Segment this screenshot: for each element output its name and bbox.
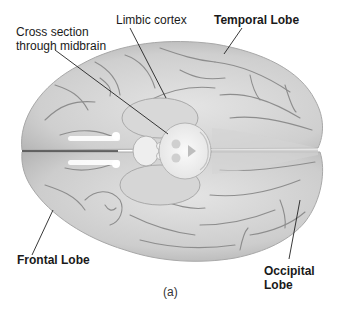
label-cross-section-line1: Cross section — [16, 25, 106, 39]
label-frontal-lobe: Frontal Lobe — [17, 253, 90, 267]
label-occipital-lobe-line2: Lobe — [264, 278, 315, 292]
figure-caption: (a) — [163, 285, 178, 299]
label-limbic-cortex-text: Limbic cortex — [116, 13, 187, 27]
label-occipital-lobe-line1: Occipital — [264, 264, 315, 278]
label-frontal-lobe-text: Frontal Lobe — [17, 253, 90, 267]
brain-figure: Cross section through midbrain Limbic co… — [0, 0, 337, 311]
label-cross-section-line2: through midbrain — [16, 39, 106, 53]
label-occipital-lobe: Occipital Lobe — [264, 264, 315, 292]
label-cross-section: Cross section through midbrain — [16, 25, 106, 53]
label-temporal-lobe: Temporal Lobe — [214, 13, 299, 27]
label-temporal-lobe-text: Temporal Lobe — [214, 13, 299, 27]
midbrain-cross-section — [159, 123, 211, 179]
label-limbic-cortex: Limbic cortex — [116, 13, 187, 27]
